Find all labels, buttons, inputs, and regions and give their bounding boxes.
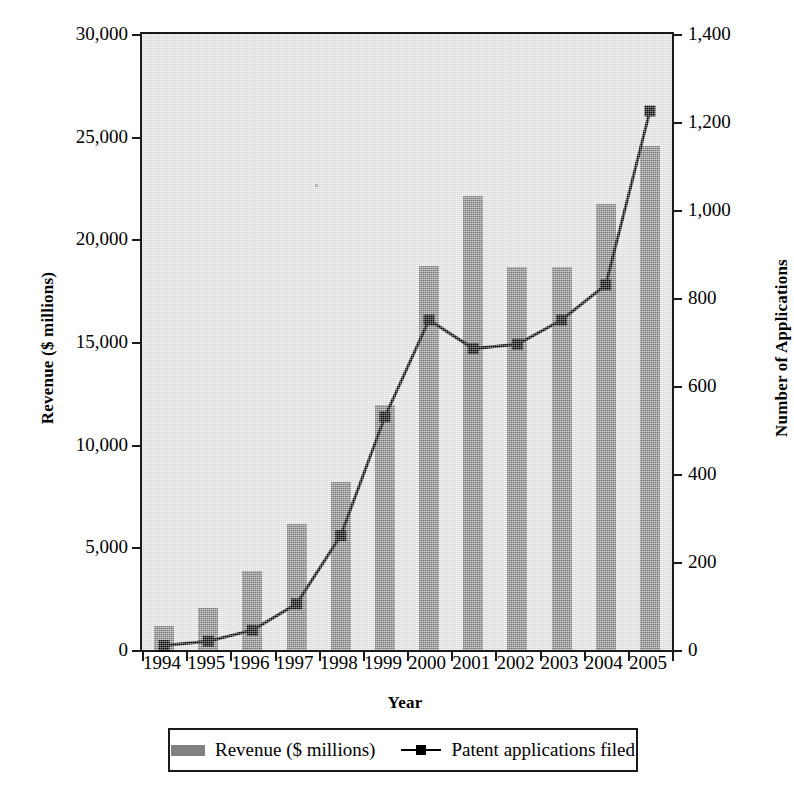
chart-legend: Revenue ($ millions) Patent applications… [168,728,638,772]
x-axis-tick-label: 2005 [626,653,670,672]
scan-artifact-dot [315,184,318,187]
line-path [164,111,650,646]
bar [552,267,572,650]
bar [287,524,307,650]
bar [463,196,483,650]
x-axis-tick-label: 2002 [493,653,537,672]
y-axis-left-tick [132,137,142,139]
legend-entry-patent-applications: Patent applications filed [401,739,635,761]
bar [331,482,351,650]
x-axis-tick-label: 1997 [273,653,317,672]
x-axis-tick-label: 2001 [449,653,493,672]
legend-label-patent-applications: Patent applications filed [451,739,635,761]
x-axis-tick-label: 1996 [228,653,272,672]
chart-figure: Revenue ($ millions) Number of Applicati… [0,0,794,792]
y-axis-right-tick [672,386,682,388]
y-axis-right-tick-label: 200 [688,552,717,571]
y-axis-right-tick-label: 0 [688,640,698,659]
y-axis-left-tick [132,650,142,652]
y-axis-left-tick-label: 30,000 [76,24,128,43]
y-axis-right-tick [672,562,682,564]
bar [419,266,439,650]
x-axis-tick-label: 1994 [140,653,184,672]
x-axis-tick-label: 2004 [582,653,626,672]
y-axis-left-tick-label: 15,000 [76,332,128,351]
x-axis-title: Year [140,693,670,713]
y-axis-right-tick [672,34,682,36]
y-axis-left-title: Revenue ($ millions) [38,218,58,478]
bar-swatch-icon [171,745,205,756]
y-axis-left-tick-label: 10,000 [76,435,128,454]
x-axis-tick-label: 1995 [184,653,228,672]
y-axis-left-tick-label: 5,000 [85,537,128,556]
y-axis-right-tick-label: 1,400 [688,24,731,43]
bar [640,146,660,650]
line-marker-swatch-icon [401,744,441,756]
line-markers [159,106,656,652]
y-axis-left-tick [132,547,142,549]
y-axis-right-tick [672,298,682,300]
y-axis-right-tick-label: 600 [688,376,717,395]
x-axis-tick [672,650,674,661]
y-axis-right-tick-label: 800 [688,288,717,307]
y-axis-right-tick-label: 400 [688,464,717,483]
y-axis-right-tick-label: 1,000 [688,200,731,219]
x-axis-tick-label: 2000 [405,653,449,672]
y-axis-right-title: Number of Applications [772,198,792,498]
x-axis-tick-label: 2003 [538,653,582,672]
bar [375,405,395,650]
plot-area: 05,00010,00015,00020,00025,00030,000 020… [140,32,674,652]
legend-label-revenue: Revenue ($ millions) [215,739,375,761]
x-axis-tick-label: 1999 [361,653,405,672]
bar [507,267,527,650]
bar [242,571,262,650]
y-axis-left-tick [132,342,142,344]
y-axis-left-tick-label: 0 [119,640,129,659]
y-axis-left-tick [132,34,142,36]
bar [154,626,174,650]
y-axis-left-tick-label: 25,000 [76,127,128,146]
y-axis-right-tick [672,474,682,476]
y-axis-left-tick-label: 20,000 [76,229,128,248]
y-axis-right-tick [672,122,682,124]
y-axis-right-tick [672,210,682,212]
x-axis-tick-label: 1998 [317,653,361,672]
y-axis-left-tick [132,239,142,241]
line-series-patent-applications [142,34,672,650]
legend-entry-revenue: Revenue ($ millions) [171,739,375,761]
line-marker [644,106,655,117]
bar [198,608,218,650]
bar [596,204,616,650]
y-axis-right-tick-label: 1,200 [688,112,731,131]
y-axis-left-tick [132,445,142,447]
